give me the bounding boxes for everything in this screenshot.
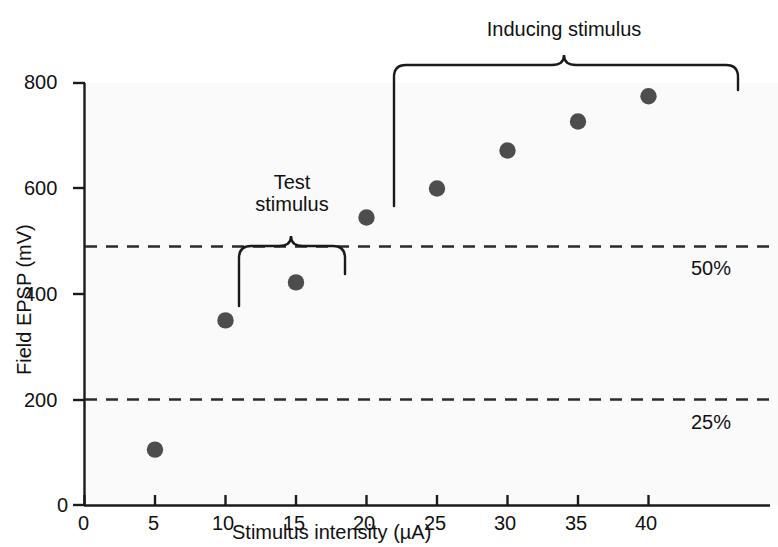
data-point-30 [499, 142, 515, 158]
x-tick-label-40: 40 [635, 513, 657, 533]
reference-lines [85, 247, 772, 400]
test-stimulus-label-line2: stimulus [232, 193, 352, 215]
y-tick-label-600: 600 [24, 178, 57, 198]
data-point-25 [429, 180, 445, 196]
axis-lines [84, 83, 770, 506]
data-point-10 [217, 312, 233, 328]
data-point-20 [358, 209, 374, 225]
reference-label-50pct: 50% [691, 258, 731, 278]
y-tick-label-800: 800 [24, 72, 57, 92]
data-point-5 [147, 441, 163, 457]
test-stimulus-label-line1: Test [232, 171, 352, 193]
x-axis-title: Stimulus intensity (µA) [232, 522, 431, 542]
y-axis-title: Field EPSP (mV) [14, 224, 34, 375]
x-tick-label-35: 35 [565, 513, 587, 533]
inducing-stimulus-brace [394, 55, 738, 206]
data-point-35 [570, 113, 586, 129]
test-stimulus-label: Test stimulus [232, 171, 352, 216]
x-tick-label-30: 30 [494, 513, 516, 533]
x-tick-label-5: 5 [148, 513, 159, 533]
inducing-stimulus-label: Inducing stimulus [464, 18, 664, 40]
chart-figure: 800 600 400 200 0 0 5 10 15 20 25 30 35 … [0, 0, 778, 547]
y-tick-label-0: 0 [57, 495, 68, 515]
x-tick-label-10: 10 [212, 513, 234, 533]
data-point-15 [288, 274, 304, 290]
y-axis-ticks [73, 83, 85, 505]
data-points [147, 88, 657, 458]
chart-canvas [0, 0, 778, 547]
test-stimulus-brace [239, 236, 345, 306]
reference-label-25pct: 25% [691, 412, 731, 432]
data-point-40 [640, 88, 656, 104]
x-tick-label-0: 0 [78, 513, 89, 533]
y-tick-label-200: 200 [24, 390, 57, 410]
